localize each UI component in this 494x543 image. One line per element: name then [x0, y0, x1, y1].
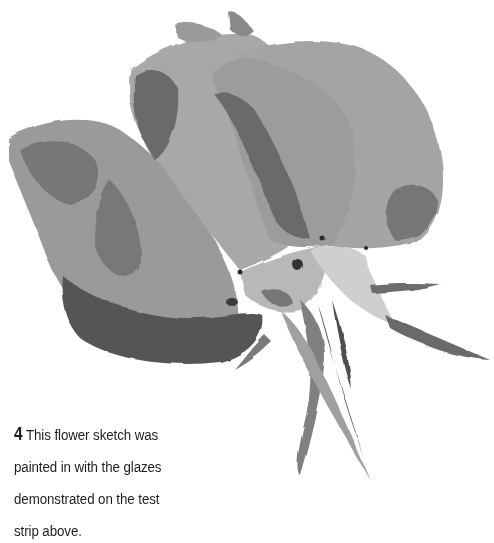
caption-line-2: painted in with the glazes: [14, 451, 212, 483]
figure-caption: 4This flower sketch was painted in with …: [14, 418, 212, 543]
caption-number: 4: [14, 424, 23, 444]
caption-line-3: demonstrated on the test: [14, 483, 212, 515]
sepal-hanging-3: [280, 310, 370, 480]
caption-line-4: strip above.: [14, 515, 212, 543]
caption-line-1: 4This flower sketch was: [14, 418, 212, 451]
